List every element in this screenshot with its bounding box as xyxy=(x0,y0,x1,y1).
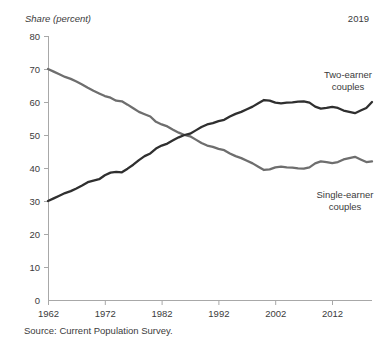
y-tick-label-60: 60 xyxy=(29,97,40,108)
x-tick-marks xyxy=(49,301,333,306)
y-tick-labels: 80 70 60 50 40 30 20 10 0 xyxy=(29,31,40,306)
y-tick-label-70: 70 xyxy=(29,64,40,75)
series-line-two-earner xyxy=(48,100,372,201)
x-tick-label-1962: 1962 xyxy=(38,308,59,319)
x-tick-label-1992: 1992 xyxy=(208,308,229,319)
source-note: Source: Current Population Survey. xyxy=(24,325,173,336)
x-tick-labels: 1962 1972 1982 1992 2002 2012 xyxy=(38,308,343,319)
series-label-single-earner-line2: couples xyxy=(329,201,362,212)
series-label-two-earner-line2: couples xyxy=(332,81,365,92)
y-tick-label-80: 80 xyxy=(29,31,40,42)
x-tick-label-1982: 1982 xyxy=(152,308,173,319)
y-tick-label-0: 0 xyxy=(35,295,40,306)
x-tick-label-2012: 2012 xyxy=(322,308,343,319)
y-tick-label-30: 30 xyxy=(29,196,40,207)
y-tick-label-50: 50 xyxy=(29,130,40,141)
y-tick-marks xyxy=(44,37,49,268)
series-line-single-earner xyxy=(48,69,372,170)
x-tick-label-2002: 2002 xyxy=(265,308,286,319)
y-tick-label-10: 10 xyxy=(29,262,40,273)
series-label-single-earner-line1: Single-earner xyxy=(316,189,373,200)
chart-figure: g Share (percent) 2019 80 70 60 50 40 30… xyxy=(0,0,391,346)
series-label-two-earner: Two-earner couples xyxy=(324,69,372,92)
x-tick-label-1972: 1972 xyxy=(95,308,116,319)
y-tick-label-20: 20 xyxy=(29,229,40,240)
series-label-single-earner: Single-earner couples xyxy=(316,189,373,212)
y-tick-label-40: 40 xyxy=(29,163,40,174)
line-chart-plot: 80 70 60 50 40 30 20 10 0 1962 1972 1982… xyxy=(0,0,391,346)
series-label-two-earner-line1: Two-earner xyxy=(324,69,372,80)
